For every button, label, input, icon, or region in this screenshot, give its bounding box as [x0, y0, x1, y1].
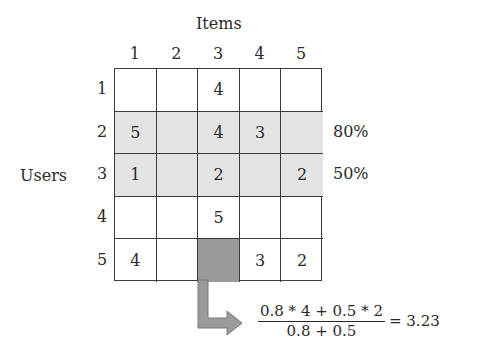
row-header-3: 3 — [94, 164, 110, 183]
prediction-formula: 0.8 * 4 + 0.5 * 2 0.8 + 0.5 = 3.23 — [258, 302, 440, 340]
matrix-cell-highlighted: 2 — [281, 154, 323, 197]
target-cell-unknown — [198, 239, 240, 282]
matrix-cell: 4 — [115, 239, 157, 282]
matrix-cell-highlighted: 3 — [240, 112, 282, 155]
column-header-5: 5 — [280, 44, 322, 63]
formula-numerator: 0.8 * 4 + 0.5 * 2 — [258, 302, 385, 322]
matrix-cell — [281, 69, 323, 112]
matrix-cell — [157, 239, 199, 282]
fraction: 0.8 * 4 + 0.5 * 2 0.8 + 0.5 — [258, 302, 385, 340]
matrix-cell — [240, 69, 282, 112]
matrix-cell — [115, 197, 157, 240]
matrix-cell-highlighted: 5 — [115, 112, 157, 155]
matrix-cell-highlighted: 1 — [115, 154, 157, 197]
row-header-5: 5 — [94, 250, 110, 269]
matrix-cell: 2 — [281, 239, 323, 282]
similarity-user-3: 50% — [333, 164, 369, 183]
matrix-cell-highlighted — [157, 154, 199, 197]
formula-result: = 3.23 — [389, 312, 440, 330]
similarity-user-2: 80% — [333, 122, 369, 141]
matrix-cell-highlighted: 4 — [198, 112, 240, 155]
column-header-2: 2 — [156, 44, 198, 63]
row-header-4: 4 — [94, 207, 110, 226]
column-header-1: 1 — [114, 44, 156, 63]
column-header-3: 3 — [197, 44, 239, 63]
matrix-cell — [281, 197, 323, 240]
row-header-1: 1 — [94, 79, 110, 98]
column-header-4: 4 — [239, 44, 281, 63]
matrix-cell-highlighted — [240, 154, 282, 197]
matrix-cell-highlighted — [281, 112, 323, 155]
matrix-cell: 4 — [198, 69, 240, 112]
matrix-cell-highlighted — [157, 112, 199, 155]
matrix-cell — [240, 197, 282, 240]
matrix-cell: 5 — [198, 197, 240, 240]
matrix-cell — [157, 197, 199, 240]
matrix-cell — [157, 69, 199, 112]
matrix-cell — [115, 69, 157, 112]
row-header-2: 2 — [94, 122, 110, 141]
items-axis-title: Items — [196, 14, 242, 33]
arrow-icon — [190, 278, 250, 340]
matrix-cell: 3 — [240, 239, 282, 282]
users-axis-label: Users — [20, 166, 67, 185]
formula-denominator: 0.8 + 0.5 — [287, 322, 357, 340]
matrix-cell-highlighted: 2 — [198, 154, 240, 197]
rating-matrix: 4 5 4 3 1 2 2 5 4 3 2 — [114, 68, 322, 281]
